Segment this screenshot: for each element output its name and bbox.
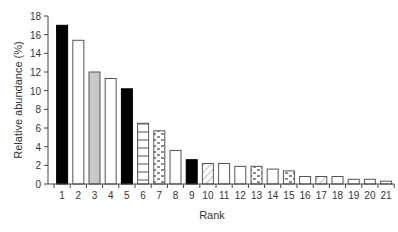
y-tick-label: 12 xyxy=(30,67,42,78)
bar-chart: 1234567891011121314151617181920210246810… xyxy=(0,0,398,232)
bar-rank-5 xyxy=(121,89,132,184)
x-tick-label: 8 xyxy=(173,190,179,201)
y-tick-label: 10 xyxy=(30,86,42,97)
x-tick-label: 1 xyxy=(59,190,65,201)
bar-rank-7 xyxy=(154,131,165,184)
bar-rank-14 xyxy=(267,169,278,184)
x-tick-label: 6 xyxy=(140,190,146,201)
x-tick-label: 20 xyxy=(364,190,376,201)
x-tick-label: 15 xyxy=(283,190,295,201)
x-tick-label: 3 xyxy=(92,190,98,201)
y-tick-label: 14 xyxy=(30,48,42,59)
bar-rank-9 xyxy=(186,160,197,184)
x-tick-label: 16 xyxy=(300,190,312,201)
x-tick-label: 17 xyxy=(316,190,328,201)
x-tick-label: 10 xyxy=(202,190,214,201)
bar-rank-8 xyxy=(170,150,181,184)
y-tick-label: 4 xyxy=(35,142,41,153)
bar-rank-13 xyxy=(251,166,262,184)
bar-rank-16 xyxy=(300,177,311,185)
x-tick-label: 14 xyxy=(267,190,279,201)
x-tick-label: 2 xyxy=(76,190,82,201)
x-tick-label: 4 xyxy=(108,190,114,201)
x-tick-label: 13 xyxy=(251,190,263,201)
x-tick-label: 11 xyxy=(219,190,230,201)
bar-rank-3 xyxy=(89,72,100,184)
bars-group xyxy=(57,25,392,184)
x-tick-label: 12 xyxy=(235,190,247,201)
bar-rank-6 xyxy=(138,123,149,184)
x-axis-label: Rank xyxy=(199,209,225,221)
x-tick-label: 21 xyxy=(381,190,393,201)
bar-rank-4 xyxy=(105,79,116,185)
bar-rank-10 xyxy=(202,164,213,185)
bar-rank-12 xyxy=(235,166,246,184)
bar-rank-20 xyxy=(364,179,375,184)
bar-rank-15 xyxy=(283,171,294,184)
bar-rank-17 xyxy=(316,177,327,185)
bar-rank-11 xyxy=(219,164,230,185)
y-tick-label: 18 xyxy=(30,11,42,22)
x-tick-label: 5 xyxy=(124,190,130,201)
y-tick-label: 8 xyxy=(35,104,41,115)
y-tick-label: 16 xyxy=(30,30,42,41)
bar-rank-1 xyxy=(57,25,68,184)
y-tick-label: 6 xyxy=(35,123,41,134)
y-axis-label: Relative abundance (%) xyxy=(12,41,24,158)
bar-rank-19 xyxy=(348,179,359,184)
bar-rank-2 xyxy=(73,40,84,184)
y-tick-label: 0 xyxy=(35,179,41,190)
x-tick-label: 18 xyxy=(332,190,344,201)
x-tick-label: 7 xyxy=(157,190,163,201)
x-tick-label: 9 xyxy=(189,190,195,201)
bar-rank-18 xyxy=(332,177,343,185)
x-tick-label: 19 xyxy=(348,190,360,201)
y-tick-label: 2 xyxy=(35,160,41,171)
